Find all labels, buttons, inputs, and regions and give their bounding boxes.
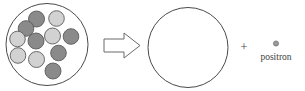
positron-group: positron bbox=[260, 41, 291, 62]
positron-dot-icon bbox=[273, 41, 278, 46]
reaction-diagram: + positron bbox=[0, 0, 305, 91]
nucleon-group bbox=[10, 11, 79, 79]
daughter-nucleus-outline bbox=[148, 8, 228, 88]
nucleon-6 bbox=[63, 29, 79, 45]
plus-symbol: + bbox=[240, 39, 247, 54]
nucleon-4 bbox=[10, 31, 26, 47]
nucleon-2 bbox=[49, 11, 65, 27]
nucleon-8 bbox=[10, 48, 26, 64]
positron-label: positron bbox=[260, 52, 291, 62]
parent-nucleus-group bbox=[6, 4, 88, 86]
diagram-canvas: + positron bbox=[0, 0, 305, 91]
reaction-arrow-icon bbox=[104, 33, 140, 58]
nucleon-5 bbox=[45, 28, 61, 44]
nucleon-7 bbox=[28, 33, 44, 49]
nucleon-9 bbox=[51, 45, 67, 61]
nucleon-11 bbox=[45, 63, 61, 79]
nucleon-10 bbox=[29, 52, 45, 68]
